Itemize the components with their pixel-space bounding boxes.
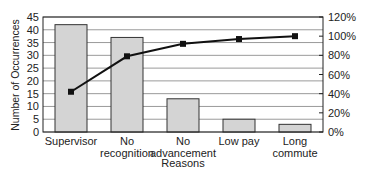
x-tick-label: No	[176, 135, 190, 147]
x-tick-label: Long	[283, 135, 307, 147]
y-tick-label: 20	[27, 75, 39, 87]
y-tick-label: 0	[33, 126, 39, 138]
y2-tick-label: 60%	[328, 69, 350, 81]
x-axis: SupervisorNorecognitionNoadvancementLow …	[45, 135, 318, 159]
bar	[111, 37, 143, 132]
y2-tick-label: 100%	[328, 30, 356, 42]
right-y-axis: 0%20%40%60%80%100%120%	[319, 11, 356, 138]
y-tick-label: 15	[27, 88, 39, 100]
bar	[279, 124, 311, 132]
line-marker	[292, 33, 298, 39]
line-marker	[180, 41, 186, 47]
y-tick-label: 35	[27, 37, 39, 49]
x-tick-label: recognition	[100, 147, 154, 159]
y-tick-label: 45	[27, 11, 39, 23]
y-tick-label: 40	[27, 24, 39, 36]
x-axis-label: Reasons	[161, 157, 205, 169]
line-marker	[124, 53, 130, 59]
y-tick-label: 10	[27, 100, 39, 112]
y-tick-label: 25	[27, 62, 39, 74]
left-y-axis: 051015202530354045	[27, 11, 39, 138]
y-axis-label: Number of Occurrences	[9, 19, 21, 130]
x-tick-label: commute	[272, 147, 317, 159]
bar	[55, 25, 87, 132]
bar	[167, 99, 199, 132]
bar	[223, 119, 255, 132]
y-tick-label: 30	[27, 49, 39, 61]
line-marker	[236, 36, 242, 42]
x-tick-label: No	[120, 135, 134, 147]
x-tick-label: Supervisor	[45, 135, 98, 147]
y2-tick-label: 80%	[328, 49, 350, 61]
y2-tick-label: 120%	[328, 11, 356, 23]
y2-tick-label: 20%	[328, 107, 350, 119]
line-marker	[68, 89, 74, 95]
pareto-chart: 051015202530354045 0%20%40%60%80%100%120…	[0, 0, 366, 180]
y2-tick-label: 0%	[328, 126, 344, 138]
y-tick-label: 5	[33, 113, 39, 125]
x-tick-label: Low pay	[219, 135, 260, 147]
y2-tick-label: 40%	[328, 88, 350, 100]
